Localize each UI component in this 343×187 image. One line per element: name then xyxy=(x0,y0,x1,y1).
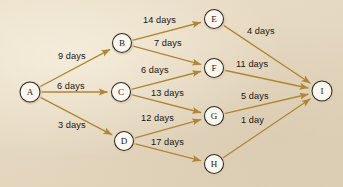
edge-label-f-i: 11 days xyxy=(236,60,268,69)
edge-label-g-i: 5 days xyxy=(241,92,269,101)
edge-label-a-c: 6 days xyxy=(57,82,85,91)
network-diagram: ABCDEFGHI 9 days6 days3 days14 days7 day… xyxy=(0,0,343,187)
node-g[interactable]: G xyxy=(204,106,226,128)
node-label-f: F xyxy=(211,63,216,73)
node-label-c: C xyxy=(118,87,124,97)
node-label-a: A xyxy=(27,87,34,97)
edge-label-h-i: 1 day xyxy=(241,116,264,125)
edge-label-b-f: 7 days xyxy=(154,39,182,48)
node-b[interactable]: B xyxy=(112,33,134,55)
node-c[interactable]: C xyxy=(111,82,133,104)
node-f[interactable]: F xyxy=(204,58,226,80)
edge-h-to-i xyxy=(223,99,310,158)
edge-label-d-g: 12 days xyxy=(141,114,174,123)
node-label-g: G xyxy=(211,111,218,121)
edge-label-b-e: 14 days xyxy=(143,16,176,25)
node-d[interactable]: D xyxy=(114,131,136,153)
node-h[interactable]: H xyxy=(204,154,226,176)
edge-label-c-g: 13 days xyxy=(151,89,184,98)
edge-label-c-f: 6 days xyxy=(141,66,169,75)
node-e[interactable]: E xyxy=(204,9,226,31)
edge-b-to-f xyxy=(132,46,200,65)
node-label-d: D xyxy=(121,136,128,146)
node-a[interactable]: A xyxy=(19,81,42,104)
edge-label-a-b: 9 days xyxy=(58,52,86,61)
edge-label-d-h: 17 days xyxy=(151,138,184,147)
node-label-b: B xyxy=(119,38,125,48)
node-i[interactable]: I xyxy=(311,80,334,103)
node-label-i: I xyxy=(321,86,324,96)
edge-label-e-i: 4 days xyxy=(247,27,275,36)
node-label-h: H xyxy=(211,159,218,169)
edge-label-a-d: 3 days xyxy=(58,121,86,130)
node-label-e: E xyxy=(211,14,217,24)
